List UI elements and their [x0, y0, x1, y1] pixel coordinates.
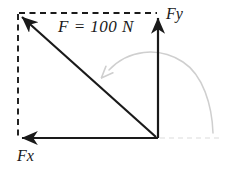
vertical-component-label: Fy	[166, 6, 183, 22]
horizontal-component-label: Fx	[17, 148, 34, 164]
rotation-arc	[109, 52, 213, 133]
force-vector-diagram: F = 100 N Fy Fx	[0, 0, 234, 177]
resultant-force-label: F = 100 N	[58, 18, 134, 35]
